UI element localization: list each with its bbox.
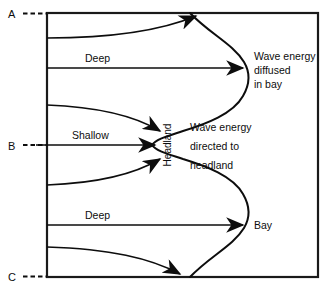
label-deep-bottom: Deep (85, 209, 110, 221)
wave-ray-1 (47, 16, 196, 38)
annotation-bay-line-1: Wave energy (254, 50, 316, 62)
diagram-canvas: A B C Deep Shallow Deep Headland Bay Wav… (0, 0, 331, 289)
annotation-bay-line-2: diffused (254, 64, 291, 76)
annotation-headland-line-1: Wave energy (190, 121, 252, 133)
label-shallow: Shallow (72, 129, 109, 141)
annotation-headland-line-3: headland (190, 159, 233, 171)
label-headland: Headland (162, 124, 173, 167)
wave-ray-5 (47, 159, 160, 185)
wave-ray-3 (47, 105, 160, 131)
marker-label-c: C (8, 271, 16, 283)
annotation-bay-line-3: in bay (254, 78, 283, 90)
marker-label-b: B (8, 140, 15, 152)
label-deep-top: Deep (85, 52, 110, 64)
annotation-headland-line-2: directed to (190, 140, 239, 152)
wave-refraction-diagram: A B C Deep Shallow Deep Headland Bay Wav… (0, 0, 331, 289)
label-bay: Bay (254, 219, 273, 231)
wave-ray-7 (47, 247, 180, 274)
marker-label-a: A (8, 8, 16, 20)
